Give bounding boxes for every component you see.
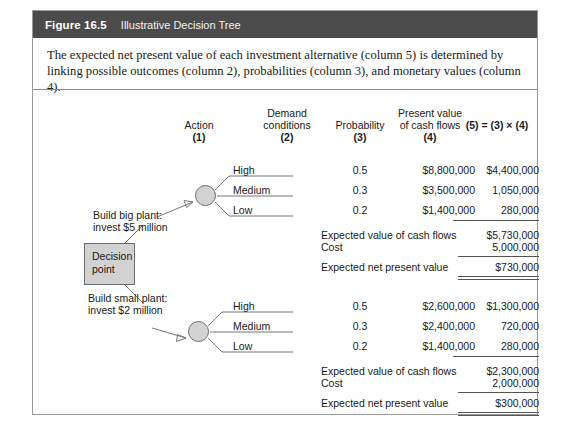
outcome-condition: Medium	[233, 184, 270, 196]
summary-label: Expected net present value	[321, 261, 448, 273]
double-rule-top	[458, 276, 539, 277]
outcome-expected-value: 280,000	[453, 204, 539, 216]
outcome-probability: 0.5	[353, 164, 368, 176]
outcome-condition: Medium	[233, 320, 270, 332]
outcome-expected-value: 720,000	[453, 320, 539, 332]
figure-title: Illustrative Decision Tree	[121, 19, 241, 31]
summary-label: Expected net present value	[321, 397, 448, 409]
double-rule-bottom	[458, 415, 539, 416]
header-col4-line3: (4)	[424, 131, 437, 143]
figure-number: Figure 16.5	[45, 19, 107, 31]
summary-label: Expected value of cash flows	[321, 229, 456, 241]
chance-node-big-plant[interactable]	[195, 185, 216, 206]
chance-node-small-plant[interactable]	[188, 321, 209, 342]
outcome-expected-value: $4,400,000	[453, 164, 539, 176]
outcome-probability: 0.3	[353, 320, 368, 332]
header-col4-line1: Present value	[398, 107, 462, 119]
outcome-probability: 0.3	[353, 184, 368, 196]
header-col2-line3: (2)	[281, 131, 294, 143]
summary-value: 5,000,000	[453, 241, 539, 253]
outcome-condition: Low	[233, 204, 252, 216]
double-rule-top	[458, 412, 539, 413]
figure-header-bar: Figure 16.5 Illustrative Decision Tree	[33, 11, 537, 38]
outcome-probability: 0.2	[353, 204, 368, 216]
decision-point-line2: point	[92, 263, 115, 275]
total-rule	[458, 392, 539, 393]
header-col1-line2: (1)	[193, 131, 206, 143]
decision-point-box[interactable]: Decision point	[84, 243, 135, 285]
action-label-small-plant-line1: Build small plant:	[88, 292, 167, 304]
header-col1-line1: Action	[184, 119, 213, 131]
total-rule	[458, 256, 539, 257]
action-label-big-plant-line1: Build big plant:	[93, 209, 162, 221]
figure-card: Figure 16.5 Illustrative Decision Tree T…	[32, 10, 538, 415]
decision-tree-diagram: Action (1) Demand conditions (2) Probabi…	[33, 90, 537, 415]
summary-value: 2,000,000	[453, 377, 539, 389]
outcome-condition: Low	[233, 340, 252, 352]
outcome-condition: High	[233, 164, 255, 176]
outcome-expected-value: 280,000	[453, 340, 539, 352]
header-col5: (5) = (3) × (4)	[466, 119, 528, 131]
header-col2-line1: Demand	[267, 107, 307, 119]
outcome-expected-value: 1,050,000	[453, 184, 539, 196]
outcome-probability: 0.2	[353, 340, 368, 352]
outcome-condition: High	[233, 300, 255, 312]
header-col4-line2: of cash flows	[400, 119, 461, 131]
summary-value: $5,730,000	[453, 229, 539, 241]
header-col3-line1: Probability	[335, 119, 384, 131]
summary-value: $730,000	[453, 261, 539, 273]
header-col3-line2: (3)	[354, 131, 367, 143]
summary-label: Cost	[321, 377, 343, 389]
summary-value: $300,000	[453, 397, 539, 409]
summary-label: Cost	[321, 241, 343, 253]
subtotal-rule	[453, 220, 539, 221]
header-col2-line2: conditions	[263, 119, 310, 131]
summary-value: $2,300,000	[453, 365, 539, 377]
decision-point-line1: Decision	[92, 250, 132, 262]
subtotal-rule	[453, 356, 539, 357]
action-label-small-plant-line2: invest $2 million	[88, 304, 163, 316]
summary-label: Expected value of cash flows	[321, 365, 456, 377]
outcome-probability: 0.5	[353, 300, 368, 312]
action-label-big-plant-line2: invest $5 million	[93, 221, 168, 233]
outcome-expected-value: $1,300,000	[453, 300, 539, 312]
double-rule-bottom	[458, 279, 539, 280]
